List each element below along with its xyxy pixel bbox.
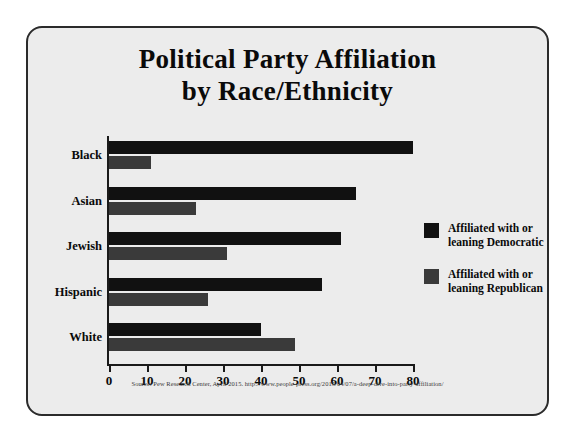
x-axis-tick bbox=[185, 366, 187, 372]
legend-label: Affiliated with orleaning Republican bbox=[448, 267, 548, 296]
category-label-hispanic: Hispanic bbox=[26, 285, 102, 300]
x-axis-tick bbox=[147, 366, 149, 372]
bar-group bbox=[109, 318, 413, 364]
legend-label: Affiliated with orleaning Democratic bbox=[448, 221, 548, 250]
x-axis: 01020304050607080 bbox=[107, 364, 415, 394]
plot-area: BlackAsianJewishHispanicWhite bbox=[107, 136, 413, 364]
category-labels: BlackAsianJewishHispanicWhite bbox=[26, 136, 102, 364]
bar bbox=[109, 278, 322, 291]
x-axis-tick bbox=[261, 366, 263, 372]
bar bbox=[109, 202, 196, 215]
chart-title-line-2: by Race/Ethnicity bbox=[28, 76, 547, 108]
bar bbox=[109, 141, 413, 154]
bar bbox=[109, 232, 341, 245]
x-axis-tick bbox=[375, 366, 377, 372]
x-axis-tick bbox=[223, 366, 225, 372]
bar-group bbox=[109, 227, 413, 273]
legend-swatch-republican bbox=[424, 269, 439, 284]
chart-card: Political Party Affiliation by Race/Ethn… bbox=[26, 26, 549, 416]
category-label-black: Black bbox=[26, 148, 102, 163]
x-axis-tick bbox=[337, 366, 339, 372]
bar bbox=[109, 247, 227, 260]
category-label-white: White bbox=[26, 330, 102, 345]
x-axis-tick bbox=[299, 366, 301, 372]
bar bbox=[109, 323, 261, 336]
chart-title-line-1: Political Party Affiliation bbox=[28, 44, 547, 76]
category-label-jewish: Jewish bbox=[26, 239, 102, 254]
bar-group bbox=[109, 182, 413, 228]
bar bbox=[109, 156, 151, 169]
bar bbox=[109, 338, 295, 351]
chart-legend: Affiliated with orleaning DemocraticAffi… bbox=[424, 221, 548, 313]
bar-group bbox=[109, 273, 413, 319]
bar bbox=[109, 293, 208, 306]
x-axis-tick bbox=[109, 366, 111, 372]
category-label-asian: Asian bbox=[26, 194, 102, 209]
legend-item: Affiliated with orleaning Democratic bbox=[424, 221, 548, 251]
bar-group bbox=[109, 136, 413, 182]
bar bbox=[109, 187, 356, 200]
source-note: Source: Pew Research Center, April 2015.… bbox=[28, 380, 547, 387]
legend-item: Affiliated with orleaning Republican bbox=[424, 267, 548, 297]
legend-swatch-democratic bbox=[424, 223, 439, 238]
chart-title: Political Party Affiliation by Race/Ethn… bbox=[28, 44, 547, 107]
x-axis-tick bbox=[413, 366, 415, 372]
